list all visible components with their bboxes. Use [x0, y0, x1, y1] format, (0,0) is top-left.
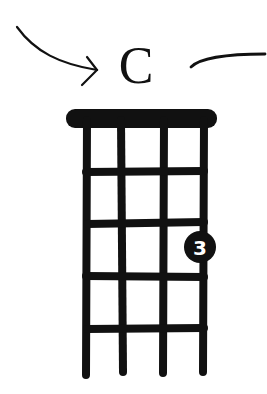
- string-1: [86, 120, 87, 375]
- string-2: [121, 120, 123, 372]
- string-3: [163, 120, 164, 373]
- fret-4: [87, 328, 204, 329]
- decorative-line: [191, 54, 265, 67]
- fret-3: [86, 276, 204, 277]
- fret-2: [87, 222, 204, 224]
- fret-1: [86, 171, 204, 172]
- arrow-icon: [17, 27, 97, 85]
- finger-number: 3: [193, 236, 207, 260]
- finger-dot: 3: [184, 231, 216, 263]
- chord-diagram: 3 C: [0, 0, 267, 394]
- chord-name: C: [113, 38, 159, 94]
